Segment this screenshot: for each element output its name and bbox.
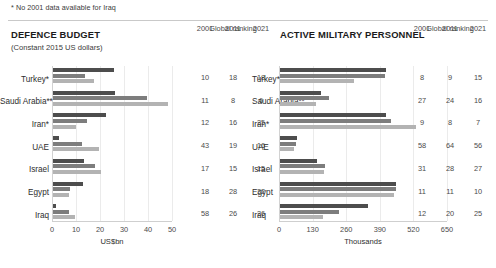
- x-axis-title: Thousands: [279, 237, 447, 246]
- ranking-value: 27: [464, 164, 492, 173]
- ranking-value: 43: [191, 141, 219, 150]
- ranking-year-2021: 2021: [464, 24, 492, 33]
- bar-2021: [280, 215, 323, 219]
- bar-2001: [53, 113, 106, 117]
- ranking-value: 11: [408, 187, 436, 196]
- x-axis-tick-label: 520: [399, 225, 427, 234]
- category-label: Iran*: [0, 120, 49, 129]
- bar-2021: [280, 147, 294, 151]
- gridline: [380, 66, 381, 221]
- bar-2011: [53, 164, 95, 168]
- ranking-row: 272416: [408, 96, 492, 105]
- bar-2021: [53, 125, 76, 129]
- ranking-years-personnel: 2001 2011 2021: [408, 24, 492, 33]
- bar-2001: [53, 159, 84, 163]
- bar-2011: [280, 96, 329, 100]
- ranking-value: 16: [219, 118, 247, 127]
- x-axis-title: US$bn: [52, 237, 172, 246]
- bar-2011: [280, 119, 391, 123]
- gridline: [346, 66, 347, 221]
- ranking-year-2011: 2011: [219, 24, 247, 33]
- ranking-row: 586456: [408, 141, 492, 150]
- bar-2001: [280, 182, 396, 186]
- bar-2001: [53, 91, 115, 95]
- ranking-value: 20: [436, 209, 464, 218]
- ranking-value: 11: [191, 96, 219, 105]
- ranking-value: 12: [408, 209, 436, 218]
- x-axis-tick-label: 650: [433, 225, 461, 234]
- ranking-value: 9: [408, 118, 436, 127]
- bar-2021: [280, 102, 316, 106]
- panel-title-personnel: ACTIVE MILITARY PERSONNEL: [280, 29, 425, 40]
- ranking-value: 24: [436, 96, 464, 105]
- ranking-value: 16: [464, 96, 492, 105]
- bar-2001: [280, 136, 297, 140]
- category-label: Israel: [0, 165, 49, 174]
- bar-2001: [53, 182, 83, 186]
- bar-2011: [53, 96, 147, 100]
- bar-2001: [280, 204, 368, 208]
- ranking-value: 15: [464, 73, 492, 82]
- panel-defence-budget: DEFENCE BUDGET (Constant 2015 US dollars…: [0, 24, 252, 268]
- bar-2021: [280, 193, 394, 197]
- category-label: Turkey*: [0, 75, 49, 84]
- ranking-row: 122025: [408, 209, 492, 218]
- ranking-value: 9: [436, 73, 464, 82]
- ranking-row: 111110: [408, 187, 492, 196]
- bar-2021: [280, 125, 416, 129]
- gridline: [313, 66, 314, 221]
- ranking-value: 11: [436, 187, 464, 196]
- plot-area-defence: Turkey*101818Saudi Arabia**1186Iran*1216…: [0, 66, 252, 232]
- x-axis-line: [52, 221, 172, 222]
- bar-2001: [280, 159, 317, 163]
- ranking-value: 26: [219, 209, 247, 218]
- gridline: [124, 66, 125, 221]
- bar-2001: [53, 204, 56, 208]
- ranking-value: 8: [408, 73, 436, 82]
- bar-2001: [280, 113, 386, 117]
- bar-2011: [280, 164, 325, 168]
- bar-2021: [53, 147, 99, 151]
- bar-2021: [280, 79, 354, 83]
- ranking-value: 19: [219, 141, 247, 150]
- x-axis-tick-label: 390: [366, 225, 394, 234]
- category-label: UAE: [0, 143, 49, 152]
- bar-2001: [280, 91, 321, 95]
- bar-2011: [280, 187, 396, 191]
- ranking-value: 10: [464, 187, 492, 196]
- ranking-value: 18: [191, 187, 219, 196]
- ranking-year-2001: 2001: [408, 24, 436, 33]
- ranking-row: 987: [408, 118, 492, 127]
- bar-2011: [53, 142, 82, 146]
- gridline: [172, 66, 173, 221]
- ranking-value: 12: [191, 118, 219, 127]
- category-label: Saudi Arabia**: [0, 97, 49, 106]
- ranking-value: 31: [408, 164, 436, 173]
- bar-2001: [53, 136, 59, 140]
- ranking-value: 27: [408, 96, 436, 105]
- bar-2021: [53, 102, 168, 106]
- bar-2011: [280, 210, 339, 214]
- ranking-value: 64: [436, 141, 464, 150]
- gridline: [100, 66, 101, 221]
- bar-2011: [53, 210, 69, 214]
- x-axis-line: [279, 221, 447, 222]
- plot-area-personnel: Turkey*8915Saudi Arabia**272416Iran*987U…: [252, 66, 496, 232]
- panel-active-personnel: ACTIVE MILITARY PERSONNEL Global ranking…: [252, 24, 496, 268]
- gridline: [148, 66, 149, 221]
- bar-2001: [280, 68, 386, 72]
- x-axis-tick-label: 260: [332, 225, 360, 234]
- panel-subtitle-defence: (Constant 2015 US dollars): [11, 43, 103, 52]
- bar-2001: [53, 68, 114, 72]
- bar-2021: [53, 215, 75, 219]
- ranking-year-2001: 2001: [191, 24, 219, 33]
- bar-2011: [53, 187, 70, 191]
- bar-2021: [53, 170, 101, 174]
- ranking-value: 8: [219, 96, 247, 105]
- ranking-value: 28: [436, 164, 464, 173]
- ranking-value: 17: [191, 164, 219, 173]
- ranking-value: 15: [219, 164, 247, 173]
- header-divider: [8, 20, 488, 21]
- ranking-value: 58: [191, 209, 219, 218]
- bar-2011: [53, 74, 85, 78]
